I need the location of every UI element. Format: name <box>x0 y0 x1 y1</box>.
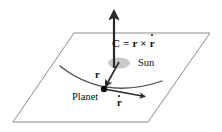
orbital-angular-momentum-diagram: C = r × r Sun Planet r r <box>0 0 222 132</box>
overdot-icon <box>118 95 120 97</box>
velocity-vector-arrow <box>104 89 145 97</box>
planet-dot <box>101 86 107 92</box>
angular-momentum-equation-label: C = r × r <box>112 38 155 49</box>
planet-label: Planet <box>72 92 98 103</box>
overdot-icon <box>151 34 153 36</box>
diagram-canvas <box>0 0 222 132</box>
velocity-vector-label: r <box>117 98 122 109</box>
position-vector-label: r <box>95 70 100 81</box>
c-symbol: C <box>112 37 120 49</box>
rdot-base-symbol: r <box>150 37 155 49</box>
cross-product-symbol: × <box>137 37 149 49</box>
equals-sign: = <box>120 37 132 49</box>
rdot-label-base: r <box>117 97 122 108</box>
sun-label: Sun <box>138 58 154 69</box>
rdot-symbol-wrapper: r <box>150 38 155 49</box>
rdot-label-wrapper: r <box>117 98 122 109</box>
